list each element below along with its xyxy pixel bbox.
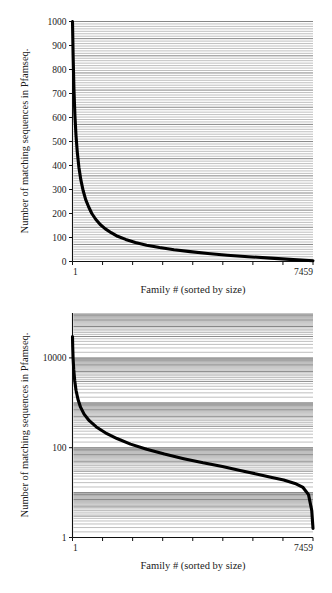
- linear-chart-xtick-label-max: 7459: [294, 267, 313, 277]
- linear-chart-gridlines: [74, 22, 314, 260]
- linear-chart-y-ticks: 10009008007006005004003002001000: [48, 17, 73, 267]
- linear-chart-ytick-label: 100: [52, 233, 67, 243]
- log-chart-x-axis-title: Family # (sorted by size): [141, 560, 246, 572]
- linear-chart-y-axis-title: Number of matching sequences in Pfamseq.: [19, 49, 30, 234]
- linear-chart-ytick-label: 300: [52, 185, 67, 195]
- linear-chart-ytick-label: 900: [52, 41, 67, 51]
- linear-scale-chart: 10009008007006005004003002001000 1 7459 …: [0, 0, 332, 300]
- log-chart-y-ticks: 100001001: [43, 353, 73, 543]
- linear-chart-ytick-label: 400: [52, 161, 67, 171]
- linear-chart-xtick-label-min: 1: [73, 267, 78, 277]
- linear-chart-ytick-label: 800: [52, 65, 67, 75]
- linear-chart-ytick-label: 700: [52, 89, 67, 99]
- log-chart-y-axis-title: Number of matching sequences in Pfamseq.: [19, 333, 30, 518]
- log-chart-xtick-label-min: 1: [73, 543, 78, 553]
- linear-chart-ytick-label: 600: [52, 113, 67, 123]
- linear-chart-ytick-label: 200: [52, 209, 67, 219]
- log-chart-svg: 100001001 1 7459 Family # (sorted by siz…: [0, 293, 332, 593]
- linear-chart-svg: 10009008007006005004003002001000 1 7459 …: [0, 0, 332, 300]
- linear-chart-ytick-label: 1000: [48, 17, 67, 27]
- log-chart-ytick-label: 100: [52, 443, 67, 453]
- linear-chart-ytick-label: 500: [52, 137, 67, 147]
- linear-chart-ytick-label: 0: [62, 257, 67, 267]
- log-scale-chart: 100001001 1 7459 Family # (sorted by siz…: [0, 293, 332, 593]
- log-chart-ytick-label: 10000: [43, 353, 67, 363]
- log-chart-ytick-label: 1: [62, 533, 67, 543]
- log-chart-xtick-label-max: 7459: [294, 543, 313, 553]
- log-chart-gridlines: [74, 314, 314, 538]
